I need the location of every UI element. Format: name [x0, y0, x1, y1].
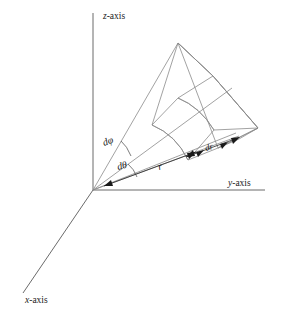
- z-axis-label-suffix: -axis: [107, 11, 126, 21]
- ray-upper-near: [93, 88, 232, 190]
- edge-outer-top: [178, 43, 213, 76]
- x-axis-line: [23, 190, 93, 293]
- d-phi-arc: [121, 141, 131, 156]
- x-axis-label: x-axis: [24, 295, 48, 305]
- dr-arrow-mid-right: [220, 142, 228, 149]
- d-theta-label: dθ: [116, 159, 128, 172]
- dr-label: dr: [204, 141, 215, 153]
- outer-face-edge-upper: [178, 43, 258, 148]
- edge-inner-top-to-outer-top: [152, 43, 178, 125]
- spherical-coordinates-figure: z-axis y-axis x-axis dφ dθ r dr: [0, 0, 281, 321]
- y-axis-label: y-axis: [227, 178, 251, 188]
- wedge-rays-group: [93, 43, 239, 190]
- d-phi-label: dφ: [101, 134, 115, 148]
- x-axis-label-suffix: -axis: [29, 295, 48, 305]
- ray-lower-near: [93, 133, 236, 190]
- dr-arrow-right: [231, 137, 240, 144]
- edge-inner-topright-to-outer: [178, 76, 213, 98]
- z-axis-label: z-axis: [102, 11, 125, 21]
- diagram-canvas: z-axis y-axis x-axis dφ dθ r dr: [0, 0, 281, 321]
- y-axis-label-suffix: -axis: [232, 178, 251, 188]
- ray-upper-far: [93, 43, 178, 190]
- edge-outer-right: [213, 76, 258, 128]
- edge-inner-right-to-outer-right: [214, 128, 258, 130]
- outer-face-edge-left: [178, 43, 218, 148]
